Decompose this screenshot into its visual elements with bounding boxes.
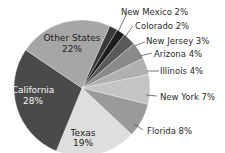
label-new-york: New York 7% [160, 92, 215, 102]
label-new-mexico: New Mexico 2% [121, 7, 188, 17]
label-arizona: Arizona 4% [154, 49, 202, 59]
label-florida: Florida 8% [147, 126, 192, 136]
label-illinois: Illinois 4% [160, 66, 203, 76]
label-new-jersey: New Jersey 3% [146, 36, 209, 46]
label-other-states-name: Other States [44, 33, 101, 43]
label-california-pct: 28% [23, 96, 43, 106]
pie-chart: New Mexico 2% Colorado 2% New Jersey 3% … [0, 0, 225, 153]
label-colorado: Colorado 2% [135, 21, 189, 31]
label-other-states-pct: 22% [62, 44, 82, 54]
label-texas-pct: 19% [73, 138, 93, 148]
label-texas-name: Texas [70, 128, 96, 138]
label-california-name: California [12, 85, 55, 95]
